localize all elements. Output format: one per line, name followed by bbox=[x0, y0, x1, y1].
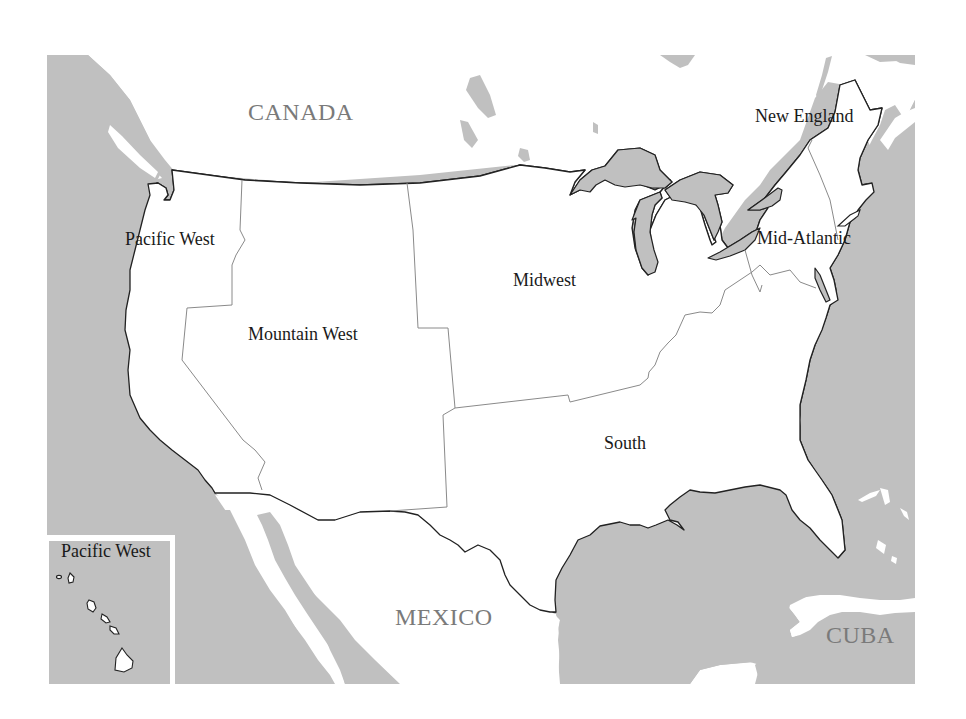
label-mexico: MEXICO bbox=[395, 604, 493, 630]
label-inset-pacific-west: Pacific West bbox=[61, 541, 151, 561]
label-pacific-west: Pacific West bbox=[125, 229, 215, 249]
label-midwest: Midwest bbox=[513, 270, 576, 290]
label-new-england: New England bbox=[755, 106, 853, 126]
label-mid-atlantic: Mid-Atlantic bbox=[757, 228, 851, 248]
label-south: South bbox=[604, 433, 646, 453]
label-cuba: CUBA bbox=[826, 622, 895, 648]
us-regions-map: CANADA MEXICO CUBA Pacific West Mountain… bbox=[0, 0, 966, 719]
label-mountain-west: Mountain West bbox=[248, 324, 358, 344]
label-canada: CANADA bbox=[248, 99, 354, 125]
inset-hawaii-water bbox=[49, 541, 170, 684]
